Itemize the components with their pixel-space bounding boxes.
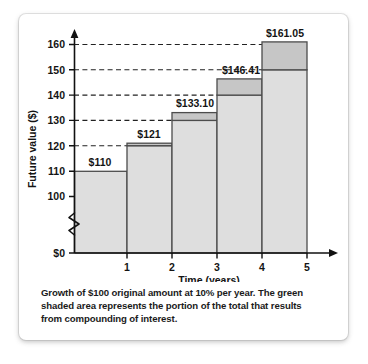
x-tick-labels: 1 2 3 4 5 — [124, 261, 310, 273]
x-axis-title: Time (years) — [178, 274, 240, 282]
bar-compound-year-4 — [217, 79, 262, 95]
y-tick-label-160: 160 — [47, 38, 65, 50]
y-axis-arrowhead-icon — [71, 29, 79, 38]
bar-value-label-year-3: $133.10 — [176, 97, 214, 109]
bar-group-year-5[interactable] — [262, 42, 307, 253]
x-tick-label-4: 4 — [259, 261, 265, 273]
y-axis-title: Future value ($) — [26, 110, 38, 188]
bar-base-year-3 — [172, 120, 217, 253]
bar-value-label-year-1: $110 — [89, 156, 112, 168]
bar-base-year-4 — [217, 95, 262, 253]
bar-group-year-1[interactable] — [75, 171, 128, 253]
figure-card: 160 150 140 130 120 110 100 $0 1 2 3 4 5… — [19, 14, 348, 340]
bar-chart-svg: 160 150 140 130 120 110 100 $0 1 2 3 4 5… — [19, 14, 348, 282]
x-tick-label-1: 1 — [124, 261, 130, 273]
x-axis-arrowhead-icon — [329, 249, 338, 257]
y-tick-label-110: 110 — [48, 165, 65, 177]
chart-plot-area: 160 150 140 130 120 110 100 $0 1 2 3 4 5… — [19, 14, 348, 282]
bar-value-label-year-2: $121 — [137, 128, 161, 140]
bar-group-year-3[interactable] — [172, 113, 217, 253]
bar-base-year-1 — [75, 171, 128, 253]
bar-base-year-2 — [127, 146, 172, 253]
caption-line-3: from compounding of interest. — [41, 312, 331, 325]
bar-group-year-4[interactable] — [217, 79, 262, 253]
x-tick-label-3: 3 — [214, 261, 220, 273]
y-tick-labels: 160 150 140 130 120 110 100 $0 — [47, 38, 65, 258]
bar-compound-year-2 — [127, 143, 172, 146]
bar-compound-year-3 — [172, 113, 217, 121]
y-tick-label-150: 150 — [47, 64, 65, 76]
bar-compound-year-5 — [262, 42, 307, 70]
bar-value-label-year-5: $161.05 — [266, 27, 304, 39]
figure-caption: Growth of $100 original amount at 10% pe… — [41, 286, 331, 326]
x-tick-label-2: 2 — [169, 261, 175, 273]
y-tick-label-120: 120 — [47, 140, 65, 152]
y-tick-label-130: 130 — [47, 114, 65, 126]
y-tick-label-0: $0 — [53, 247, 65, 259]
y-tick-label-140: 140 — [47, 89, 65, 101]
bar-value-label-year-4: $146.41 — [222, 64, 260, 76]
bar-base-year-5 — [262, 70, 307, 253]
bar-group-year-2[interactable] — [127, 143, 172, 253]
y-tick-label-100: 100 — [47, 190, 65, 202]
caption-line-2: shaded area represents the portion of th… — [41, 299, 331, 312]
caption-line-1: Growth of $100 original amount at 10% pe… — [41, 286, 331, 299]
x-tick-label-5: 5 — [304, 261, 310, 273]
